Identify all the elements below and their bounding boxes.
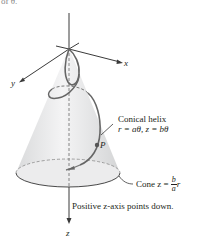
helix-title: Conical helix [118, 114, 166, 124]
x-arrowhead [117, 60, 124, 65]
y-arrowhead [19, 78, 25, 83]
z-axis-label: z [66, 228, 70, 238]
cone-equation: Cone z = b a r [136, 176, 180, 193]
cone-leader-line [119, 176, 133, 184]
header-fragment: of θ. [1, 0, 17, 6]
cone-prefix: Cone z = [136, 179, 169, 189]
x-axis-label: x [124, 58, 128, 68]
cone-fraction-denominator: a [172, 185, 176, 193]
helix-equation: r = aθ, z = bθ [118, 124, 169, 134]
z-direction-note: Positive z-axis points down. [72, 201, 174, 211]
y-axis-back [69, 43, 79, 49]
z-arrowhead [67, 218, 72, 224]
y-axis-label: y [11, 78, 15, 88]
point-p-label: P [100, 140, 106, 150]
point-p-marker [95, 143, 99, 147]
x-axis-back [56, 46, 69, 49]
cone-suffix: r [177, 179, 181, 189]
helix-leader-line [101, 124, 113, 135]
